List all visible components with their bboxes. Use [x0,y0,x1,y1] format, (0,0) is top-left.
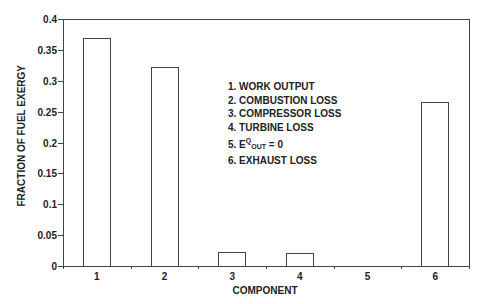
y-tick [58,19,63,20]
x-tick-label: 4 [297,271,303,282]
x-tick [198,266,199,269]
legend-item-5: 5. EQOUT = 0 [228,134,341,154]
y-tick-label: 0.05 [38,230,57,241]
y-axis-title: FRACTION OF FUEL EXERGY [16,77,27,207]
x-tick-label: 1 [94,271,100,282]
x-tick [469,266,470,269]
y-tick-label: 0.25 [38,106,57,117]
legend-item-4: 4. TURBINE LOSS [228,121,341,135]
legend-item-6: 6. EXHAUST LOSS [228,154,341,168]
y-tick-label: 0.3 [43,75,57,86]
y-tick-label: 0.15 [38,168,57,179]
y-axis [63,19,64,267]
legend-item-3: 3. COMPRESSOR LOSS [228,107,341,121]
y-tick-label: 0 [51,261,57,272]
legend-item-1: 1. WORK OUTPUT [228,80,341,94]
y-tick-label: 0.4 [43,14,57,25]
x-tick-label: 3 [229,271,235,282]
x-tick [266,266,267,269]
legend-item-2: 2. COMBUSTION LOSS [228,94,341,108]
y-tick [58,81,63,82]
bar-component-2 [151,67,179,267]
x-tick-label: 5 [365,271,371,282]
y-tick [58,235,63,236]
x-tick [131,266,132,269]
y-tick-label: 0.2 [43,137,57,148]
x-tick-label: 2 [162,271,168,282]
x-tick-label: 6 [432,271,438,282]
y-tick [58,112,63,113]
x-tick [334,266,335,269]
y-tick-label: 0.35 [38,44,57,55]
x-tick [401,266,402,269]
y-tick [58,173,63,174]
bar-component-1 [83,38,111,267]
x-axis-title: COMPONENT [0,285,485,296]
y-tick-label: 0.1 [43,199,57,210]
y-tick [58,50,63,51]
bar-component-6 [421,102,449,267]
y-tick [58,143,63,144]
bar-component-4 [286,253,314,267]
x-tick [63,266,64,269]
y-tick [58,204,63,205]
legend: 1. WORK OUTPUT 2. COMBUSTION LOSS 3. COM… [228,80,341,167]
bar-component-3 [218,252,246,267]
